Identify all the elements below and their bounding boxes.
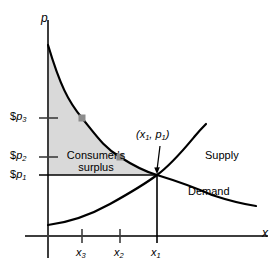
x-axis-label: x — [262, 227, 268, 240]
x3-subscript: 3 — [82, 251, 86, 260]
price-tick-label-p2: $p2 — [10, 150, 26, 162]
x3-symbol: x — [76, 246, 82, 258]
consumer-surplus-diagram: p x $p3 $p2 $p1 x3 x2 x1 (x1, p1) Supply… — [0, 0, 279, 277]
marker-x3-p3 — [79, 115, 86, 122]
price-tick-label-p3: $p3 — [10, 111, 26, 123]
x2-symbol: x — [114, 246, 120, 258]
demand-curve-label: Demand — [188, 186, 230, 198]
eq-close-paren: ) — [166, 128, 170, 140]
price-tick-label-p1: $p1 — [10, 169, 26, 181]
equilibrium-point-label: (x1, p1) — [136, 129, 169, 141]
p-axis-label: p — [41, 12, 48, 25]
consumer-surplus-line-1: Consumer's — [53, 150, 139, 162]
supply-curve-label: Supply — [205, 150, 239, 162]
consumer-surplus-label: Consumer's surplus — [53, 150, 139, 173]
x1-subscript: 1 — [157, 251, 161, 260]
p2-subscript: 2 — [22, 154, 26, 163]
eq-p-subscript: 1 — [162, 133, 166, 142]
consumer-surplus-line-2: surplus — [53, 162, 139, 174]
p1-subscript: 1 — [22, 173, 26, 182]
eq-x-subscript: 1 — [145, 133, 149, 142]
quantity-tick-label-x1: x1 — [151, 247, 161, 259]
eq-p-symbol: p — [155, 128, 161, 140]
x2-subscript: 2 — [120, 251, 124, 260]
equilibrium-arrow-shaft — [157, 146, 160, 170]
p3-subscript: 3 — [22, 115, 26, 124]
quantity-tick-label-x2: x2 — [114, 247, 124, 259]
quantity-tick-label-x3: x3 — [76, 247, 86, 259]
x1-symbol: x — [151, 246, 157, 258]
